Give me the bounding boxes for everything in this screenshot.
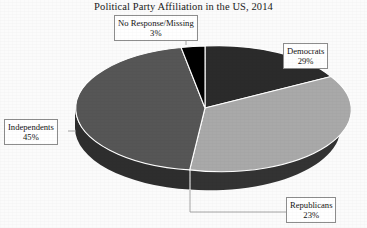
slice-label-no-response-name: No Response/Missing: [118, 18, 194, 28]
pie-chart-figure: Political Party Affiliation in the US, 2…: [0, 0, 367, 228]
slice-label-no-response[interactable]: No Response/Missing 3%: [114, 15, 198, 41]
slice-label-republicans-name: Republicans: [290, 200, 332, 210]
slice-label-independents-value: 45%: [8, 132, 54, 142]
slice-label-republicans[interactable]: Republicans 23%: [286, 197, 336, 223]
slice-label-independents-name: Independents: [8, 122, 54, 132]
slice-label-democrats-value: 29%: [287, 56, 324, 66]
slice-label-independents[interactable]: Independents 45%: [4, 119, 58, 145]
slice-label-democrats-name: Democrats: [287, 46, 324, 56]
slice-label-republicans-value: 23%: [290, 210, 332, 220]
slice-label-no-response-value: 3%: [118, 28, 194, 38]
slice-label-democrats[interactable]: Democrats 29%: [283, 43, 328, 69]
